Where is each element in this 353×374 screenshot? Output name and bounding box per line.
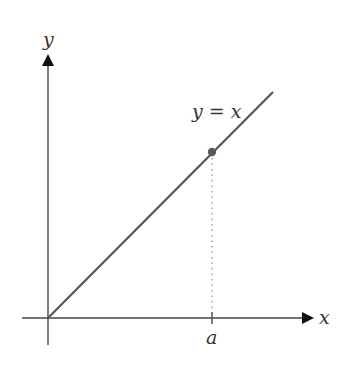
y-axis-arrowhead-icon	[42, 54, 54, 66]
identity-line	[49, 92, 273, 317]
y-axis-label: y	[42, 28, 54, 50]
marked-point	[208, 148, 216, 156]
x-axis-label: x	[319, 306, 330, 328]
diagram: y x y = x a	[0, 0, 353, 374]
identity-line-label: y = x	[191, 100, 242, 122]
tick-label-a: a	[206, 326, 217, 348]
x-axis-arrowhead-icon	[302, 312, 314, 324]
